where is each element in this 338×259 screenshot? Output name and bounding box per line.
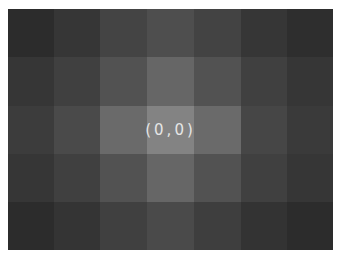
grid-cell xyxy=(100,154,147,202)
grid-cell xyxy=(54,106,100,154)
grid-cell xyxy=(147,57,194,106)
grid-cell xyxy=(241,154,287,202)
grid-cell xyxy=(194,9,241,57)
grid-cell xyxy=(194,154,241,202)
grid-cell xyxy=(287,202,333,250)
intensity-grid: (0,0) xyxy=(8,9,333,250)
grid-cell xyxy=(100,9,147,57)
grid-cell xyxy=(8,154,54,202)
grid-cell xyxy=(287,106,333,154)
grid-cell xyxy=(287,154,333,202)
grid-cell xyxy=(241,202,287,250)
grid-cell xyxy=(147,154,194,202)
grid-cell xyxy=(54,57,100,106)
grid-cell xyxy=(100,106,147,154)
grid-cell xyxy=(287,9,333,57)
grid-cell xyxy=(100,57,147,106)
grid-cell xyxy=(8,202,54,250)
grid-cell xyxy=(287,57,333,106)
grid-cell xyxy=(241,57,287,106)
center-coordinate-label: (0,0) xyxy=(145,121,196,139)
grid-cell xyxy=(194,106,241,154)
grid-cell xyxy=(194,57,241,106)
grid-cell xyxy=(54,9,100,57)
canvas: (0,0) xyxy=(0,0,338,259)
grid-cell xyxy=(54,154,100,202)
grid-cell-center: (0,0) xyxy=(147,106,194,154)
grid-cell xyxy=(241,9,287,57)
grid-cell xyxy=(241,106,287,154)
grid-cell xyxy=(147,202,194,250)
grid-cell xyxy=(54,202,100,250)
grid-cell xyxy=(8,106,54,154)
grid-cell xyxy=(8,9,54,57)
grid-cell xyxy=(147,9,194,57)
grid-cell xyxy=(194,202,241,250)
grid-cell xyxy=(100,202,147,250)
grid-cell xyxy=(8,57,54,106)
